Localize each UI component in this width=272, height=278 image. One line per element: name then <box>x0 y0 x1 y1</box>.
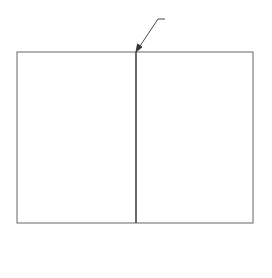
balance-match-diagram <box>0 0 272 278</box>
panel-outline <box>17 52 253 223</box>
panel-joint-leader <box>136 19 165 52</box>
